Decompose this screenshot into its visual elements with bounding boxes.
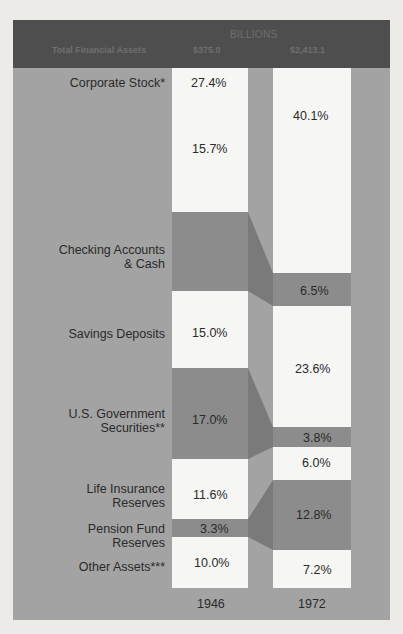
- label-other-text: Other Assets***: [79, 560, 165, 574]
- value-1946-usgov: 17.0%: [192, 413, 227, 427]
- flow-checking: [248, 212, 273, 306]
- label-life-line2: Reserves: [86, 496, 165, 510]
- flow-pension: [248, 480, 273, 550]
- value-1946-life: 11.6%: [193, 488, 228, 502]
- value-1972-other: 7.2%: [303, 563, 332, 577]
- bar-1972-corporate-stock: [273, 68, 351, 273]
- label-pension-line2: Reserves: [88, 536, 165, 550]
- label-checking-line2: & Cash: [59, 257, 165, 271]
- label-usgov-line2: Securities**: [68, 421, 165, 435]
- label-life: Life Insurance Reserves: [86, 482, 165, 510]
- value-1972-pension: 12.8%: [296, 508, 331, 522]
- year-1946: 1946: [197, 597, 225, 611]
- label-usgov: U.S. Government Securities**: [68, 407, 165, 435]
- bar-1946-checking: [172, 212, 248, 291]
- year-1972: 1972: [298, 597, 326, 611]
- label-savings-text: Savings Deposits: [68, 327, 165, 341]
- value-1946-corporate-stock: 27.4%: [191, 76, 226, 90]
- value-1946-pension: 3.3%: [200, 522, 229, 536]
- label-pension-line1: Pension Fund: [88, 522, 165, 536]
- value-1972-usgov: 3.8%: [303, 431, 332, 445]
- label-corporate-stock: Corporate Stock*: [70, 76, 165, 90]
- label-checking-line1: Checking Accounts: [59, 243, 165, 257]
- value-1946-savings: 15.0%: [192, 326, 227, 340]
- value-1946-checking: 15.7%: [192, 142, 227, 156]
- value-1972-checking: 6.5%: [300, 284, 329, 298]
- value-1946-other: 10.0%: [194, 556, 229, 570]
- label-corporate-stock-text: Corporate Stock*: [70, 76, 165, 90]
- label-other: Other Assets***: [79, 560, 165, 574]
- label-savings: Savings Deposits: [68, 327, 165, 341]
- label-usgov-line1: U.S. Government: [68, 407, 165, 421]
- value-1972-corporate-stock: 40.1%: [293, 109, 328, 123]
- flow-usgov: [248, 368, 273, 459]
- label-checking: Checking Accounts & Cash: [59, 243, 165, 271]
- label-life-line1: Life Insurance: [86, 482, 165, 496]
- label-pension: Pension Fund Reserves: [88, 522, 165, 550]
- value-1972-life: 6.0%: [302, 456, 331, 470]
- value-1972-savings: 23.6%: [295, 362, 330, 376]
